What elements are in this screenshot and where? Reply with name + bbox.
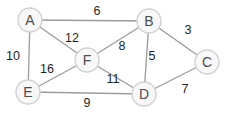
edge-weight-C-D: 7 (182, 82, 189, 96)
edge-weight-E-F: 16 (40, 62, 54, 76)
edge-weight-F-D: 11 (107, 72, 120, 86)
node-D-label: D (139, 86, 149, 102)
node-B-label: B (144, 13, 153, 29)
edge-weight-E-D: 9 (84, 96, 91, 110)
edge-weight-A-F: 12 (65, 31, 79, 45)
edge-weight-B-C: 3 (185, 23, 192, 37)
edge-weight-A-B: 6 (94, 4, 101, 18)
edge-A-B (30, 20, 149, 21)
node-E-label: E (23, 84, 32, 100)
graph-svg: ABCDEF61210169118537 (0, 0, 233, 114)
edge-weight-B-D: 5 (149, 49, 156, 63)
node-A-label: A (25, 12, 35, 28)
edge-weight-F-B: 8 (119, 39, 126, 53)
edge-weight-A-E: 10 (6, 49, 20, 63)
edge-E-D (28, 92, 144, 94)
node-F-label: F (83, 52, 92, 68)
graph-diagram: ABCDEF61210169118537 (0, 0, 233, 114)
node-C-label: C (202, 54, 212, 70)
